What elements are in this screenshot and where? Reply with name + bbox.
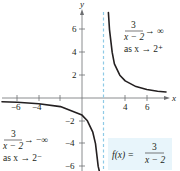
rational-function-graph: x −6 −4 4 6 y 6 4 2 −2 −4 −6 3 [0,0,180,171]
right-limit-arrow: → ∞ [145,26,164,36]
x-tick-label: 6 [145,102,150,112]
y-axis: y 6 4 2 −2 −4 −6 [65,0,85,171]
left-limit-annotation: 3 x − 2 → −∞ as x → 2⁻ [2,129,48,163]
left-limit-condition: as x → 2⁻ [3,153,42,163]
y-tick-label: −4 [65,138,75,148]
function-label-numerator: 3 [152,142,157,152]
x-tick-label: 4 [123,102,128,112]
left-limit-denominator: x − 2 [2,141,23,151]
y-tick-label: 2 [72,70,77,80]
left-limit-numerator: 3 [11,129,16,139]
y-tick-label: −2 [65,116,75,126]
x-axis-arrow-icon [164,96,170,100]
y-axis-label: y [79,0,84,9]
x-axis-label: x [171,93,176,103]
function-label-lhs: f(x) = [112,150,134,161]
x-tick-label: −6 [11,102,21,112]
y-tick-label: 4 [72,47,77,57]
y-axis-arrow-icon [80,9,84,15]
left-limit-arrow: → −∞ [24,135,48,145]
right-limit-denominator: x − 2 [123,32,144,42]
right-limit-annotation: 3 x − 2 → ∞ as x → 2⁺ [123,20,164,54]
right-limit-condition: as x → 2⁺ [124,44,163,54]
function-label-denominator: x − 2 [144,155,165,165]
y-tick-label: 6 [72,24,77,34]
right-limit-numerator: 3 [131,20,136,30]
y-tick-label: −6 [65,161,75,171]
